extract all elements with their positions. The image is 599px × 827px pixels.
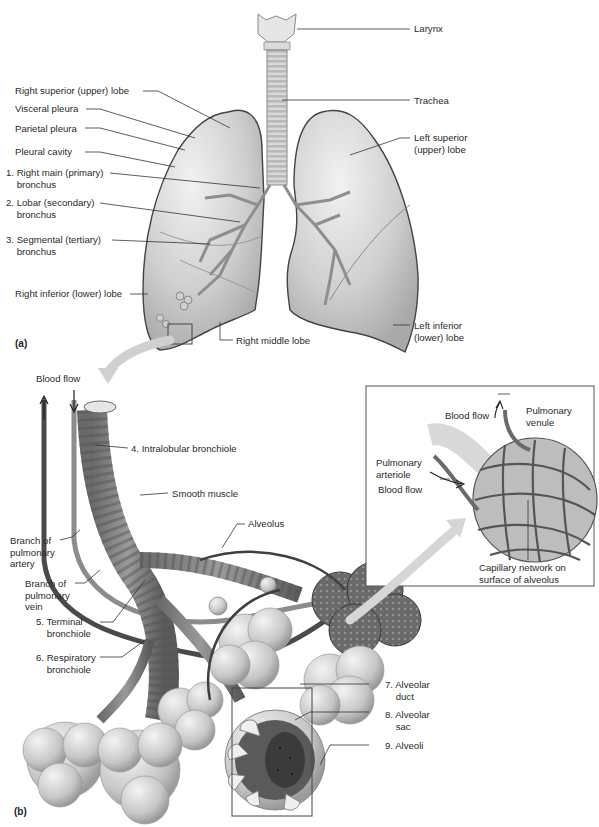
label-visceral-pleura: Visceral pleura bbox=[15, 103, 78, 115]
label-smooth-muscle: Smooth muscle bbox=[172, 488, 238, 500]
label-parietal-pleura: Parietal pleura bbox=[15, 123, 77, 135]
label-left-superior-lobe: Left superior (upper) lobe bbox=[414, 132, 467, 155]
label-pleural-cavity: Pleural cavity bbox=[15, 146, 72, 158]
label-right-inferior-lobe: Right inferior (lower) lobe bbox=[15, 288, 122, 300]
label-alveoli: 9. Alveoli bbox=[385, 740, 423, 752]
label-right-main-bronchus: 1. Right main (primary) bronchus bbox=[6, 167, 104, 190]
label-right-middle-lobe: Right middle lobe bbox=[236, 335, 310, 347]
label-alveolar-duct: 7. Alveolar duct bbox=[385, 679, 430, 702]
label-blood-flow-top: Blood flow bbox=[36, 373, 80, 385]
right-lung-shape bbox=[143, 110, 264, 350]
label-alveolar-sac: 8. Alveolar sac bbox=[385, 709, 430, 732]
label-branch-pulmonary-vein: Branch of pulmonary vein bbox=[25, 578, 70, 613]
label-pulmonary-arteriole: Pulmonary arteriole bbox=[376, 457, 422, 480]
larynx-shape bbox=[258, 14, 296, 50]
label-terminal-bronchiole: 5. Terminal bronchiole bbox=[36, 616, 91, 639]
label-lobar-bronchus: 2. Lobar (secondary) bronchus bbox=[6, 197, 95, 220]
label-right-superior-lobe: Right superior (upper) lobe bbox=[15, 85, 129, 97]
label-left-inferior-lobe: Left inferior (lower) lobe bbox=[414, 320, 464, 343]
anatomy-illustration bbox=[0, 0, 599, 827]
label-respiratory-bronchiole: 6. Respiratory bronchiole bbox=[36, 652, 96, 675]
label-branch-pulmonary-artery: Branch of pulmonary artery bbox=[10, 535, 55, 570]
label-intralobular-bronchiole: 4. Intralobular bronchiole bbox=[131, 443, 237, 455]
label-capillary-network: Capillary network on surface of alveolus bbox=[479, 562, 566, 585]
alveolus-small bbox=[209, 597, 227, 615]
label-inset-blood-flow-in: Blood flow bbox=[378, 484, 422, 496]
label-inset-blood-flow-out: Blood flow bbox=[445, 410, 489, 422]
label-larynx: Larynx bbox=[414, 23, 443, 35]
label-alveolus: Alveolus bbox=[248, 518, 284, 530]
left-lung-shape bbox=[287, 110, 418, 352]
label-segmental-bronchus: 3. Segmental (tertiary) bronchus bbox=[6, 234, 101, 257]
zoom-arrow bbox=[108, 340, 170, 372]
bronchiole-opening bbox=[84, 401, 116, 413]
trachea-shape bbox=[267, 50, 287, 185]
label-pulmonary-venule: Pulmonary venule bbox=[526, 405, 572, 428]
label-trachea: Trachea bbox=[414, 95, 449, 107]
panel-b-tag: (b) bbox=[14, 806, 27, 817]
panel-a-tag: (a) bbox=[15, 338, 27, 349]
